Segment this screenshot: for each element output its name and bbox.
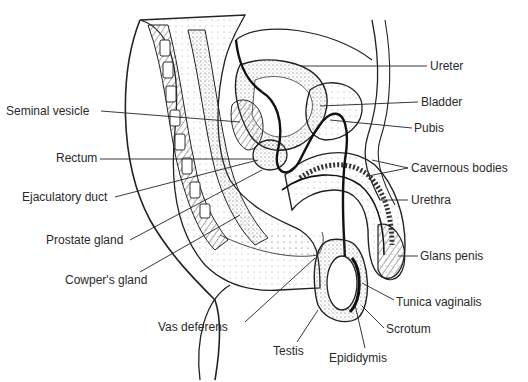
label-testis: Testis: [273, 344, 304, 358]
label-scrotum: Scrotum: [386, 322, 431, 336]
label-ureter: Ureter: [430, 59, 463, 73]
label-epididymis: Epididymis: [329, 351, 387, 365]
label-cavernous-bodies: Cavernous bodies: [411, 161, 508, 175]
label-cowpers-gland: Cowper's gland: [65, 273, 147, 287]
label-glans-penis: Glans penis: [420, 249, 483, 263]
label-urethra: Urethra: [411, 193, 451, 207]
label-bladder: Bladder: [421, 95, 462, 109]
label-seminal-vesicle: Seminal vesicle: [6, 104, 89, 118]
prostate: [253, 140, 287, 170]
label-tunica-vaginalis: Tunica vaginalis: [396, 295, 482, 309]
label-ejaculatory-duct: Ejaculatory duct: [22, 190, 107, 204]
scrotum: [314, 239, 367, 321]
label-pubis: Pubis: [414, 121, 444, 135]
label-rectum: Rectum: [56, 151, 97, 165]
label-vas-deferens: Vas deferens: [158, 320, 228, 334]
anatomy-diagram: Seminal vesicle Rectum Ejaculatory duct …: [0, 0, 528, 382]
label-prostate-gland: Prostate gland: [46, 233, 123, 247]
testis: [327, 256, 357, 310]
